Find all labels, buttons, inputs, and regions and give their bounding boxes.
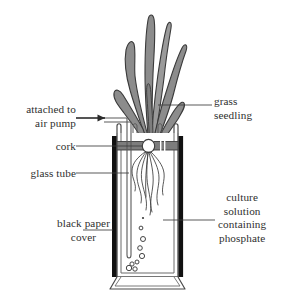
air-bubble <box>138 246 143 251</box>
air-bubble <box>142 217 144 219</box>
air-bubble <box>141 237 146 242</box>
beaker-rim-lip <box>174 124 178 133</box>
air-bubble <box>135 260 139 264</box>
label-line: glass tube <box>31 167 76 181</box>
label-cork: cork <box>56 140 76 154</box>
air-bubble <box>133 267 137 271</box>
label-line: cover <box>57 231 110 245</box>
label-black-paper-cover: black paper cover <box>57 217 110 244</box>
diagram-canvas: attached to air pump cork glass tube bla… <box>0 0 290 299</box>
label-line: air pump <box>26 117 76 131</box>
black-paper-cover-right <box>179 136 184 277</box>
label-line: cork <box>56 140 76 154</box>
label-line: culture <box>218 191 266 205</box>
air-arrow-head <box>98 114 106 121</box>
label-glass-tube: glass tube <box>31 167 76 181</box>
air-bubble <box>126 265 131 270</box>
label-line: attached to <box>26 103 76 117</box>
label-attached-to-air-pump: attached to air pump <box>26 103 76 130</box>
label-line: containing <box>218 218 266 232</box>
beaker-base <box>110 277 185 289</box>
label-line: phosphate <box>218 232 266 246</box>
cork-slot <box>160 141 161 152</box>
diagram-illustration <box>0 0 290 299</box>
beaker-rim-lip <box>117 124 121 133</box>
air-flow-arrow <box>76 114 105 121</box>
label-culture-solution: culture solution containing phosphate <box>218 191 266 245</box>
label-line: grass <box>214 95 252 109</box>
air-bubble <box>139 226 143 230</box>
label-grass-seedling: grass seedling <box>214 95 252 122</box>
grass-seedling <box>114 15 187 148</box>
label-line: seedling <box>214 109 252 123</box>
air-bubble <box>139 253 144 258</box>
cork-slot <box>164 141 165 152</box>
cork-hole <box>142 139 154 152</box>
label-line: solution <box>218 205 266 219</box>
black-paper-cover-left <box>112 136 117 277</box>
label-line: black paper <box>57 217 110 231</box>
